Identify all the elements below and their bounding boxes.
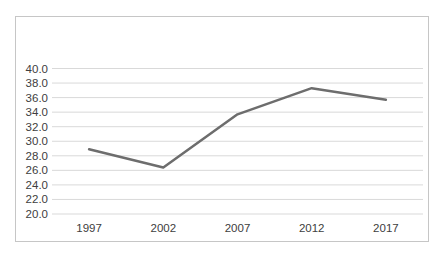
x-axis-tick-label: 2002: [151, 222, 177, 234]
y-axis-tick-label: 20.0: [26, 208, 48, 220]
x-axis-tick-label: 1997: [76, 222, 102, 234]
y-axis-tick-label: 26.0: [26, 164, 48, 176]
y-axis-tick-label: 28.0: [26, 150, 48, 162]
line-chart: 40.038.036.034.032.030.028.026.024.022.0…: [0, 0, 441, 257]
y-axis-tick-label: 34.0: [26, 106, 48, 118]
y-axis-tick-label: 40.0: [26, 63, 48, 75]
chart-canvas: 40.038.036.034.032.030.028.026.024.022.0…: [0, 0, 441, 257]
x-axis-tick-label: 2007: [225, 222, 251, 234]
y-axis-tick-label: 24.0: [26, 179, 48, 191]
y-axis-tick-label: 38.0: [26, 77, 48, 89]
y-axis-tick-label: 30.0: [26, 135, 48, 147]
chart-frame: [16, 17, 429, 242]
y-axis-tick-label: 36.0: [26, 92, 48, 104]
x-axis-tick-label: 2017: [373, 222, 399, 234]
y-axis-tick-label: 22.0: [26, 193, 48, 205]
x-axis-tick-label: 2012: [299, 222, 325, 234]
y-axis-tick-label: 32.0: [26, 121, 48, 133]
